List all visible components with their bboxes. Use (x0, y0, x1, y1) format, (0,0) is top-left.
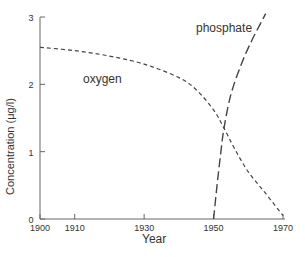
x-tick-label: 1900 (30, 223, 50, 233)
chart: 0123 19001910193019501970 oxygen phospha… (0, 0, 305, 257)
y-tick-label: 3 (28, 13, 33, 23)
y-tick-label: 1 (28, 148, 33, 158)
y-axis-label: Concentration (μg/l) (4, 98, 16, 195)
oxygen-label: oxygen (83, 72, 122, 86)
x-ticks: 19001910193019501970 (30, 214, 293, 233)
y-ticks: 0123 (28, 13, 45, 225)
phosphate-label: phosphate (196, 21, 252, 35)
phosphate-line (214, 14, 266, 219)
series-group (40, 14, 283, 219)
y-tick-label: 2 (28, 80, 33, 90)
x-axis-label: Year (142, 232, 166, 246)
oxygen-line (40, 47, 283, 215)
x-tick-label: 1970 (273, 223, 293, 233)
chart-svg: 0123 19001910193019501970 oxygen phospha… (0, 0, 305, 257)
x-tick-label: 1910 (65, 223, 85, 233)
x-tick-label: 1950 (204, 223, 224, 233)
